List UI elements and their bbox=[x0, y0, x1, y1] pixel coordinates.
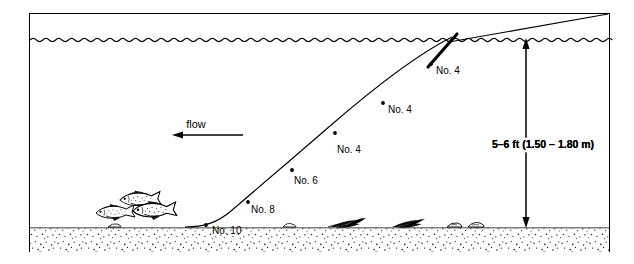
depth-dimension-arrow bbox=[522, 38, 529, 228]
fish bbox=[96, 204, 135, 221]
split-shot-dot bbox=[381, 101, 385, 105]
split-shot-dot bbox=[333, 131, 337, 135]
diagram-canvas: flow No. 4 No. 4 No. 4 No. 6 No. 8 No. 1… bbox=[0, 0, 634, 264]
fishing-line-above-surface bbox=[449, 14, 608, 42]
shot-label-4: No. 6 bbox=[294, 175, 318, 186]
depth-arrowhead-up-icon bbox=[522, 38, 529, 49]
weed-clump bbox=[328, 218, 366, 228]
shot-label-2: No. 4 bbox=[388, 104, 412, 115]
rock bbox=[283, 223, 296, 227]
split-shot-dot bbox=[429, 62, 433, 66]
fishing-line-underwater bbox=[185, 37, 452, 227]
split-shot-dot bbox=[290, 168, 294, 172]
shot-label-3: No. 4 bbox=[337, 144, 361, 155]
fish-group bbox=[96, 191, 177, 221]
weed-clump bbox=[392, 219, 425, 228]
riverbed-sand bbox=[30, 229, 609, 253]
flow-label: flow bbox=[186, 118, 206, 130]
flow-arrow bbox=[172, 132, 243, 139]
fishing-depth-diagram: flow No. 4 No. 4 No. 4 No. 6 No. 8 No. 1… bbox=[0, 0, 634, 264]
shot-label-5: No. 8 bbox=[251, 204, 275, 215]
shot-label-1: No. 4 bbox=[436, 65, 460, 76]
depth-arrowhead-down-icon bbox=[522, 217, 529, 228]
depth-label: 5–6 ft (1.50 – 1.80 m) bbox=[492, 138, 594, 150]
split-shot-dot bbox=[246, 200, 250, 204]
shot-label-6: No. 10 bbox=[212, 225, 242, 236]
rock bbox=[468, 223, 484, 228]
weed-group bbox=[108, 218, 484, 228]
rock bbox=[447, 223, 462, 227]
split-shot-dot bbox=[204, 223, 208, 227]
flow-arrowhead-icon bbox=[172, 132, 183, 139]
rock bbox=[108, 224, 121, 227]
